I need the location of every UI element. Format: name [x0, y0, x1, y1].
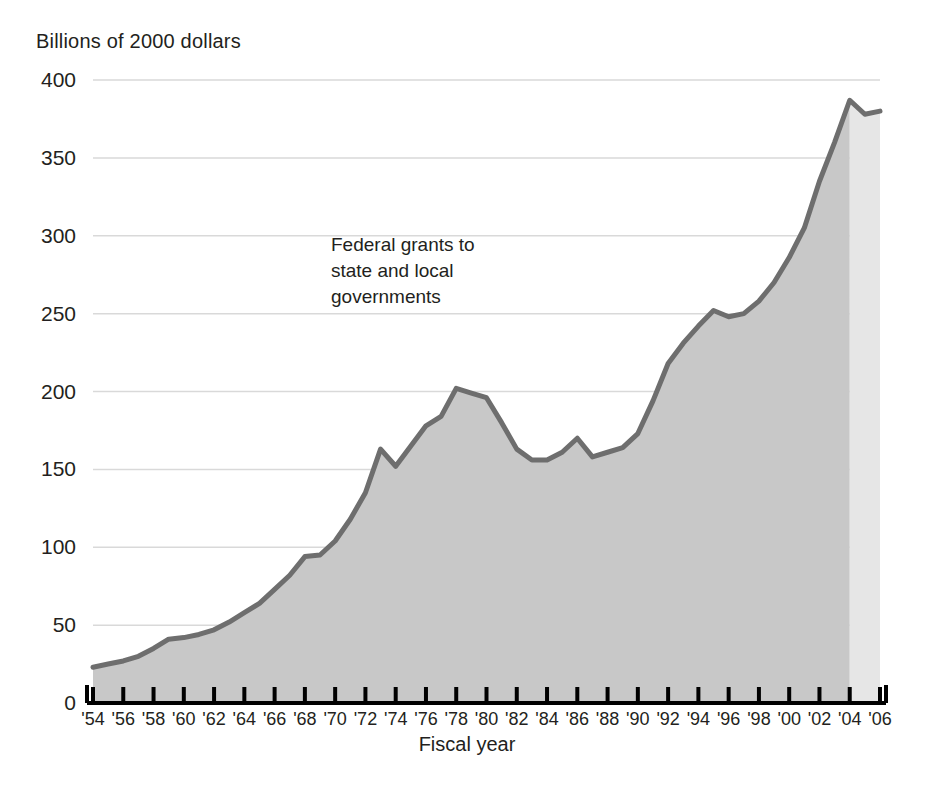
- x-axis-tick-label: '54: [81, 709, 104, 730]
- y-axis-tick-label: 350: [14, 146, 76, 170]
- x-axis-tick-label: '60: [172, 709, 195, 730]
- area-fill-projection: [850, 100, 880, 703]
- x-axis-tick-label: '94: [687, 709, 710, 730]
- y-axis-tick-label: 200: [14, 380, 76, 404]
- x-axis-tick-label: '86: [566, 709, 589, 730]
- series-annotation: Federal grants to state and local govern…: [331, 232, 475, 310]
- y-axis-tick-label: 300: [14, 224, 76, 248]
- x-axis-tick-label: '90: [626, 709, 649, 730]
- y-axis-tick-label: 100: [14, 535, 76, 559]
- x-axis-tick-label: '72: [354, 709, 377, 730]
- x-axis-tick-label: '84: [535, 709, 558, 730]
- x-axis-tick-label: '74: [384, 709, 407, 730]
- x-axis-tick-label: '58: [142, 709, 165, 730]
- x-axis-tick-label: '70: [323, 709, 346, 730]
- chart-figure: Billions of 2000 dollars 050100150200250…: [0, 0, 934, 802]
- x-axis-tick-label: '80: [475, 709, 498, 730]
- x-axis-tick-label: '06: [868, 709, 891, 730]
- x-axis-tick-label: '68: [293, 709, 316, 730]
- y-axis-tick-label: 150: [14, 457, 76, 481]
- x-axis-tick-label: '82: [505, 709, 528, 730]
- x-axis-tick-label: '88: [596, 709, 619, 730]
- y-axis-tick-label: 400: [14, 68, 76, 92]
- y-axis-tick-label: 0: [14, 691, 76, 715]
- x-axis-tick-label: '04: [838, 709, 861, 730]
- plot-area: [0, 0, 934, 802]
- x-axis-tick-label: '62: [202, 709, 225, 730]
- x-axis-tick-label: '00: [777, 709, 800, 730]
- x-axis-tick-label: '64: [233, 709, 256, 730]
- y-axis-tick-label: 250: [14, 302, 76, 326]
- x-axis-tick-label: '66: [263, 709, 286, 730]
- chart-svg: [0, 0, 934, 802]
- area-fill-actual: [93, 100, 850, 703]
- x-axis-title: Fiscal year: [0, 733, 934, 756]
- x-axis-tick-label: '98: [747, 709, 770, 730]
- x-axis-tick-label: '76: [414, 709, 437, 730]
- y-axis-tick-label: 50: [14, 613, 76, 637]
- x-axis-tick-label: '96: [717, 709, 740, 730]
- x-axis-tick-label: '92: [656, 709, 679, 730]
- x-axis-tick-label: '78: [444, 709, 467, 730]
- x-axis-tick-label: '02: [808, 709, 831, 730]
- x-axis-tick-label: '56: [112, 709, 135, 730]
